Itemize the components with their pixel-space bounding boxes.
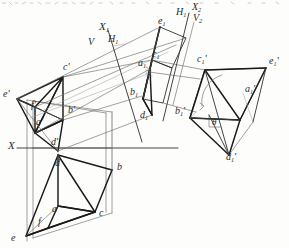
point-label-e1: e1 xyxy=(158,16,166,26)
aux2-edge-c1e1 xyxy=(205,68,266,70)
point-label-a1-prime: a1' xyxy=(245,84,255,94)
axis-label-h1: H1 xyxy=(108,34,118,44)
aux2-edge-c1a1 xyxy=(205,70,240,120)
point-label-b1: b1 xyxy=(130,87,138,97)
point-label-a1: a1 xyxy=(138,58,146,68)
point-label-b-plan: b xyxy=(117,162,122,172)
point-label-b1-prime: b1' xyxy=(175,106,185,116)
scan-artifact-strip xyxy=(2,2,279,5)
aux2-edge-b1d1 xyxy=(190,118,229,155)
axis-label-v2: V2 xyxy=(193,13,202,23)
point-label-d-prime: d' xyxy=(51,137,58,147)
figure-canvas: .heavy { stroke:#1a1a1a; stroke-width:1.… xyxy=(0,0,289,248)
point-label-c-prime: c' xyxy=(63,62,70,72)
point-label-b-prime: b' xyxy=(68,105,75,115)
ray-a xyxy=(35,69,150,133)
axis-label-h1-b: H1 xyxy=(176,7,186,17)
point-label-a-plan: a xyxy=(52,204,57,214)
frontal-edge-bd xyxy=(58,120,63,151)
figure-drawing: .heavy { stroke:#1a1a1a; stroke-width:1.… xyxy=(0,0,289,248)
axis-label-v: V xyxy=(88,37,94,47)
point-label-c-plan: c xyxy=(99,208,103,218)
point-label-a-prime: a' xyxy=(36,117,43,127)
axis-label-x: X xyxy=(8,140,15,151)
point-label-d1-prime: d1' xyxy=(226,152,236,162)
point-label-e-plan: e xyxy=(11,233,15,243)
axis-label-x1: X1 xyxy=(99,21,109,32)
point-label-d1: d1 xyxy=(140,110,148,120)
point-label-e-prime: e' xyxy=(3,89,10,99)
axis-label-x2: X2 xyxy=(192,2,201,12)
point-label-c1-prime: c1' xyxy=(197,54,207,64)
plan-edge-cb xyxy=(95,170,112,212)
point-label-f-prime: f' xyxy=(31,100,36,110)
aux2-edge-a1d1 xyxy=(229,120,240,155)
aux2-edge-c1d1 xyxy=(205,70,229,155)
ray-d xyxy=(58,115,152,151)
point-label-e1-prime: e1' xyxy=(269,56,279,66)
aux2-edge-lower-right xyxy=(229,122,253,155)
point-label-f-plan: f xyxy=(38,217,41,227)
angle-label-theta: θ xyxy=(212,118,216,127)
plan-edge-ac xyxy=(58,206,95,212)
aux2-edge-right-drop xyxy=(253,68,266,122)
point-label-d-plan: d xyxy=(55,158,60,168)
point-label-c1: c1 xyxy=(152,49,160,59)
aux2-outer-quad xyxy=(190,68,266,120)
aux2-edge-e1a1 xyxy=(240,68,266,120)
second-auxiliary-view-group xyxy=(190,68,266,155)
auxiliary-transfer-lines xyxy=(17,27,186,151)
